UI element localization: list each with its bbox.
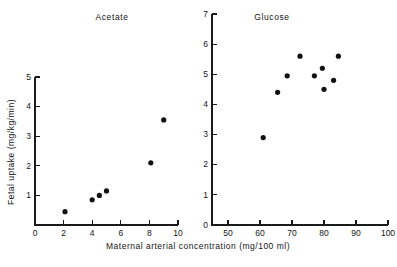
y-axis-ticks-acetate: 12345 [26,72,40,200]
data-point [321,87,326,92]
y-tick-label: 2 [203,159,208,169]
data-point [297,54,302,59]
y-tick-label: 3 [203,129,208,139]
y-tick-label: 1 [203,190,208,200]
x-tick-label: 80 [319,228,329,238]
data-point [275,90,280,95]
data-point [90,197,95,202]
data-point [97,193,102,198]
data-points-glucose [261,54,341,141]
x-axis-ticks-glucose: 5060708090100 [223,220,395,238]
data-point [320,66,325,71]
x-tick-label: 100 [381,228,395,238]
y-tick-label: 5 [26,72,31,82]
y-tick-label: 6 [203,39,208,49]
y-tick-label: 1 [26,190,31,200]
data-points-acetate [62,117,166,214]
figure-container: Acetate 12345 0246810 Glucose 01234567 5… [0,0,397,267]
y-tick-label: 2 [26,161,31,171]
x-tick-label: 4 [90,228,95,238]
data-point [285,73,290,78]
data-point [62,209,67,214]
x-tick-label: 90 [351,228,361,238]
x-tick-label: 60 [255,228,265,238]
axis-frame-acetate [35,77,178,225]
data-point [148,160,153,165]
y-axis-ticks-glucose: 01234567 [203,9,217,230]
y-axis-title: Fetal uptake (mg/kg/min) [6,99,16,205]
y-tick-label: 3 [26,131,31,141]
y-tick-label: 7 [203,9,208,19]
x-tick-label: 6 [118,228,123,238]
data-point [331,78,336,83]
data-point [261,135,266,140]
axis-frame-glucose [212,14,388,225]
panel-title-glucose: Glucose [254,12,289,22]
x-tick-label: 0 [33,228,38,238]
panel-title-acetate: Acetate [95,12,128,22]
panel-glucose: Glucose 01234567 5060708090100 [203,9,395,239]
x-tick-label: 50 [223,228,233,238]
panel-acetate: Acetate 12345 0246810 [26,12,183,238]
y-tick-label: 5 [203,69,208,79]
x-tick-label: 2 [61,228,66,238]
y-tick-label: 0 [203,220,208,230]
scatter-plot-figure: Acetate 12345 0246810 Glucose 01234567 5… [0,0,397,267]
data-point [336,54,341,59]
x-tick-label: 10 [173,228,183,238]
x-axis-title: Maternal arterial concentration (mg/100 … [106,241,290,251]
data-point [104,188,109,193]
x-tick-label: 8 [147,228,152,238]
y-tick-label: 4 [26,101,31,111]
x-tick-label: 70 [287,228,297,238]
data-point [161,117,166,122]
y-tick-label: 4 [203,99,208,109]
x-axis-ticks-acetate: 0246810 [33,220,183,238]
data-point [312,73,317,78]
